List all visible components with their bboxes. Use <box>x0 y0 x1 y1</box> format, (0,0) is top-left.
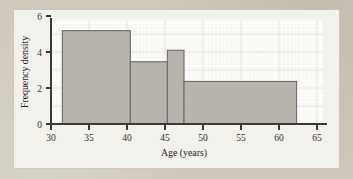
x-tick-label: 40 <box>122 133 132 143</box>
x-tick-label: 35 <box>84 133 94 143</box>
x-tick-label: 65 <box>312 133 322 143</box>
x-tick-label: 60 <box>274 133 284 143</box>
y-tick-label: 6 <box>37 12 42 22</box>
figure-card: 0 2 4 6 30 35 40 <box>14 10 339 168</box>
histogram-figure: 0 2 4 6 30 35 40 <box>14 10 339 168</box>
histogram-bar <box>184 81 297 124</box>
page-background: 0 2 4 6 30 35 40 <box>0 0 353 179</box>
y-tick-label: 0 <box>37 120 42 130</box>
y-axis-title: Frequency density <box>19 36 30 108</box>
x-axis: 30 35 40 45 50 55 60 65 <box>46 124 327 143</box>
x-tick-label: 45 <box>160 133 170 143</box>
y-tick-label: 4 <box>37 48 42 58</box>
histogram-bar <box>62 31 130 124</box>
y-tick-label: 2 <box>37 84 42 94</box>
histogram-bar <box>130 62 167 124</box>
histogram-bar <box>167 50 184 124</box>
x-tick-label: 55 <box>236 133 246 143</box>
histogram-svg: 0 2 4 6 30 35 40 <box>14 10 339 168</box>
x-tick-label: 50 <box>198 133 208 143</box>
x-axis-title: Age (years) <box>161 147 207 159</box>
y-axis: 0 2 4 6 <box>37 12 51 130</box>
x-tick-label: 30 <box>46 133 56 143</box>
